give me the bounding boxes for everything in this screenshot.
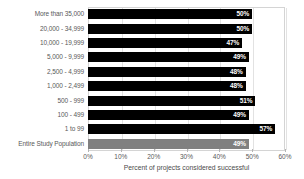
category-label: 2,500 - 4,999	[47, 67, 84, 77]
bar-row: 48%	[88, 67, 285, 77]
bar-value-label: 49%	[233, 139, 246, 149]
x-axis-tick-label: 30%	[180, 152, 193, 162]
bar-value-label: 50%	[236, 24, 249, 34]
category-label: 5,000 - 9,999	[47, 52, 84, 62]
bar: 57%	[88, 124, 275, 134]
bar: 49%	[88, 110, 249, 120]
x-axis-tick-label: 40%	[213, 152, 226, 162]
bar-series: 50%50%47%49%48%48%51%49%57%49%	[88, 7, 285, 151]
bar-row: 49%	[88, 52, 285, 62]
category-label: 1,000 - 2,499	[47, 81, 84, 91]
x-axis-tick-label: 60%	[278, 152, 291, 162]
category-label: 100 - 499	[57, 110, 84, 120]
x-axis-title: Percent of projects considered successfu…	[88, 164, 285, 171]
category-axis-labels: More than 35,00020,000 - 34,99910,000 - …	[0, 7, 84, 151]
x-axis-tick-label: 10%	[114, 152, 127, 162]
bar-row: 47%	[88, 38, 285, 48]
x-axis-tick-label: 50%	[246, 152, 259, 162]
bar-value-label: 48%	[230, 67, 243, 77]
bar-row: 57%	[88, 124, 285, 134]
bar-row: 51%	[88, 96, 285, 106]
category-label: More than 35,000	[35, 9, 84, 19]
bar-row: 49%	[88, 110, 285, 120]
bar-row: 49%	[88, 139, 285, 149]
bar: 50%	[88, 24, 252, 34]
x-axis-tick-label: 0%	[83, 152, 92, 162]
bar: 50%	[88, 9, 252, 19]
bar-value-label: 51%	[240, 96, 253, 106]
category-label: 10,000 - 19,999	[40, 38, 84, 48]
gridline	[286, 8, 287, 150]
bar-value-label: 49%	[233, 52, 246, 62]
bar-value-label: 57%	[259, 124, 272, 134]
bar: 48%	[88, 81, 246, 91]
bar-value-label: 48%	[230, 81, 243, 91]
bar-row: 50%	[88, 9, 285, 19]
bar-value-label: 49%	[233, 110, 246, 120]
x-axis-tick-labels: 0%10%20%30%40%50%60%	[88, 152, 285, 164]
x-axis-tick-label: 20%	[147, 152, 160, 162]
bar: 49%	[88, 139, 249, 149]
bar: 48%	[88, 67, 246, 77]
bar-row: 50%	[88, 24, 285, 34]
category-label: 500 - 999	[57, 96, 84, 106]
category-label: Entire Study Population	[18, 139, 84, 149]
bar-value-label: 50%	[236, 9, 249, 19]
category-label: 20,000 - 34,999	[40, 24, 84, 34]
category-label: 1 to 99	[65, 124, 84, 134]
bar: 47%	[88, 38, 242, 48]
bar-value-label: 47%	[227, 38, 240, 48]
bar: 51%	[88, 96, 255, 106]
bar-chart: More than 35,00020,000 - 34,99910,000 - …	[0, 0, 304, 179]
bar-row: 48%	[88, 81, 285, 91]
bar: 49%	[88, 52, 249, 62]
